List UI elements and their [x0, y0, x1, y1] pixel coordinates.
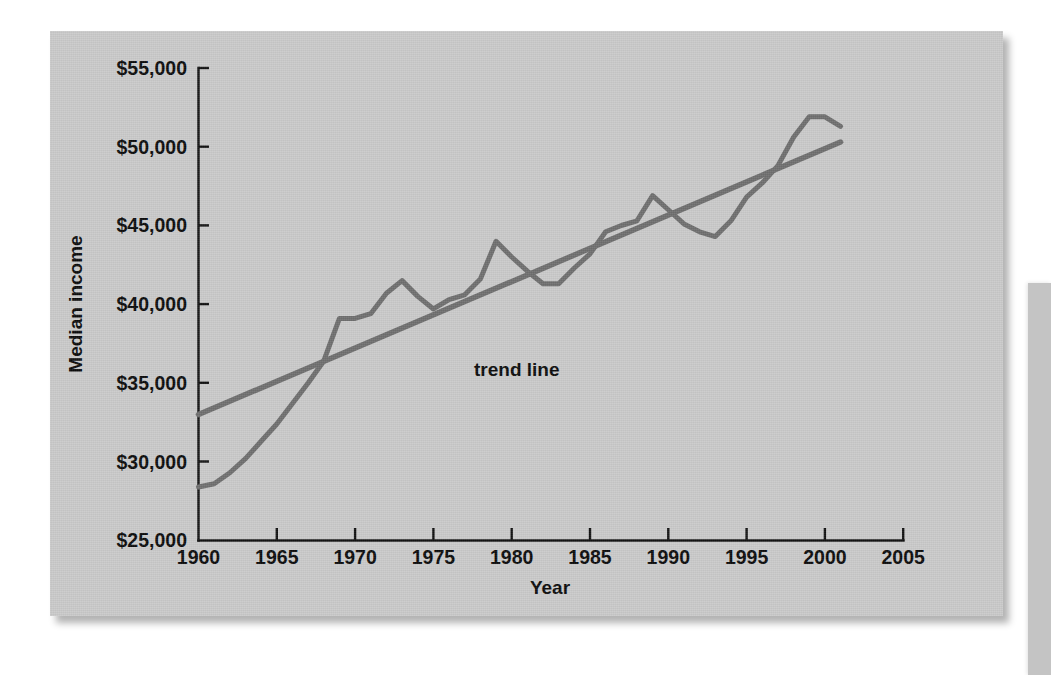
x-tick-label-2005: 2005 — [882, 546, 926, 568]
median-income-path — [199, 117, 841, 487]
x-tick-label-1990: 1990 — [647, 546, 691, 568]
y-tick-label-35000: $35,000 — [117, 372, 188, 394]
x-tick-label-1960: 1960 — [177, 546, 221, 568]
y-tick-label-45000: $45,000 — [117, 214, 188, 236]
x-tick-label-1965: 1965 — [255, 546, 299, 568]
side-panel-strip — [1028, 283, 1051, 675]
x-axis-title: Year — [530, 577, 571, 598]
y-tick-label-40000: $40,000 — [117, 293, 188, 315]
x-tick-label-1980: 1980 — [490, 546, 534, 568]
y-tick-marks — [199, 68, 210, 462]
x-tick-labels: 1960 1965 1970 1975 1980 1985 1990 1995 … — [177, 546, 925, 568]
y-tick-label-30000: $30,000 — [117, 451, 188, 473]
x-tick-label-2000: 2000 — [803, 546, 847, 568]
x-tick-label-1985: 1985 — [568, 546, 612, 568]
x-tick-label-1975: 1975 — [412, 546, 456, 568]
trend-line-annotation: trend line — [474, 359, 560, 380]
y-tick-label-55000: $55,000 — [117, 57, 188, 79]
median-income-line-chart: $55,000 $50,000 $45,000 $40,000 $35,000 … — [50, 31, 1003, 616]
x-tick-label-1995: 1995 — [725, 546, 769, 568]
y-tick-labels: $55,000 $50,000 $45,000 $40,000 $35,000 … — [117, 57, 188, 551]
x-tick-label-1970: 1970 — [333, 546, 377, 568]
x-tick-marks — [277, 528, 903, 541]
axes-group — [199, 68, 904, 541]
y-tick-label-50000: $50,000 — [117, 136, 188, 158]
y-axis-title: Median income — [65, 235, 86, 372]
figure-panel: $55,000 $50,000 $45,000 $40,000 $35,000 … — [50, 31, 1003, 616]
